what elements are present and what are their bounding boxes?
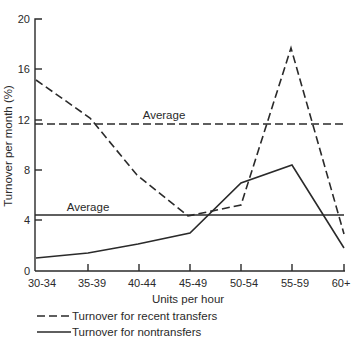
x-tick-labels: 30-34 35-39 40-44 45-49 50-54 55-59 60+ [28,277,350,289]
y-axis [35,19,42,271]
y-axis-title: Turnover per month (%) [2,85,14,207]
x-tick-60-plus: 60+ [332,277,351,289]
x-tick-30-34: 30-34 [28,277,56,289]
x-axis-title: Units per hour [152,293,224,305]
y-tick-labels: 20 16 12 8 4 0 [18,13,30,277]
x-tick-55-59: 55-59 [281,277,309,289]
x-tick-50-54: 50-54 [230,277,258,289]
y-tick-4: 4 [24,214,30,226]
x-axis [35,264,345,271]
y-tick-8: 8 [24,164,30,176]
legend-label-non: Turnover for nontransfers [72,326,202,338]
average-label-non: Average [67,201,110,213]
x-tick-35-39: 35-39 [78,277,106,289]
legend-label-recent: Turnover for recent transfers [72,310,218,322]
y-tick-16: 16 [18,63,30,75]
legend: Turnover for recent transfers Turnover f… [37,310,218,338]
y-tick-20: 20 [18,13,30,25]
x-tick-45-49: 45-49 [179,277,207,289]
average-label-recent: Average [143,109,186,121]
x-tick-40-44: 40-44 [128,277,156,289]
y-tick-0: 0 [24,265,30,277]
turnover-chart: 20 16 12 8 4 0 30-34 35-39 40-44 45-49 5… [0,0,360,348]
y-tick-12: 12 [18,114,30,126]
